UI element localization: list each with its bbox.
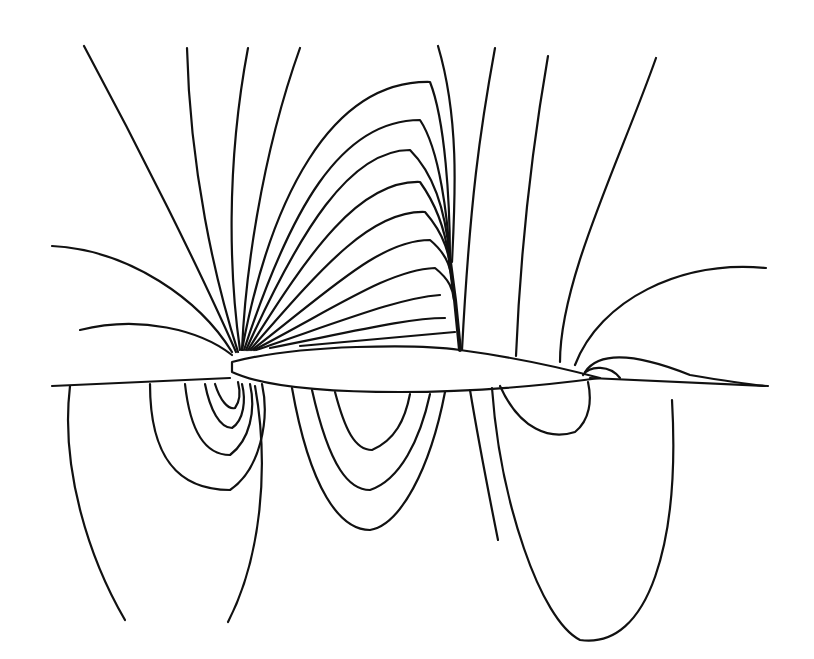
lower-contours (68, 382, 673, 641)
airfoil-outline (232, 346, 600, 392)
contour-plot (0, 0, 814, 659)
contour-figure (0, 0, 814, 659)
chord-line (52, 378, 768, 386)
upper-contours (52, 46, 766, 365)
